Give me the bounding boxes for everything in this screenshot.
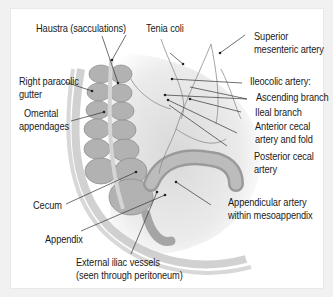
label-omental-2: appendages (19, 120, 69, 133)
label-posterior-cecal-1: Posterior cecal (254, 150, 314, 163)
label-anterior-cecal-1: Anterior cecal (255, 120, 310, 133)
label-cecum: Cecum (33, 199, 62, 212)
label-haustra: Haustra (sacculations) (36, 22, 126, 35)
label-anterior-cecal-2: artery and fold (255, 133, 313, 146)
label-superior-mesenteric-1: Superior (254, 30, 288, 43)
label-right-paracolic-2: gutter (19, 88, 42, 101)
label-posterior-cecal-2: artery (254, 163, 277, 176)
label-omental-1: Omental (24, 107, 58, 120)
figure-panel: Haustra (sacculations) Tenia coli Superi… (11, 9, 323, 288)
label-ileal-branch: Ileal branch (255, 106, 302, 119)
label-appendix: Appendix (45, 233, 83, 246)
label-appendicular-1: Appendicular artery (228, 196, 306, 209)
label-external-iliac-1: External iliac vessels (76, 256, 160, 269)
label-ileocolic: Ileocolic artery: (250, 75, 311, 88)
label-right-paracolic-1: Right paracolic (19, 75, 79, 88)
label-external-iliac-2: (seen through peritoneum) (76, 269, 183, 282)
label-tenia-coli: Tenia coli (146, 22, 184, 35)
label-appendicular-2: within mesoappendix (228, 209, 313, 222)
label-superior-mesenteric-2: mesenteric artery (254, 43, 324, 56)
label-ascending-branch: Ascending branch (256, 91, 329, 104)
